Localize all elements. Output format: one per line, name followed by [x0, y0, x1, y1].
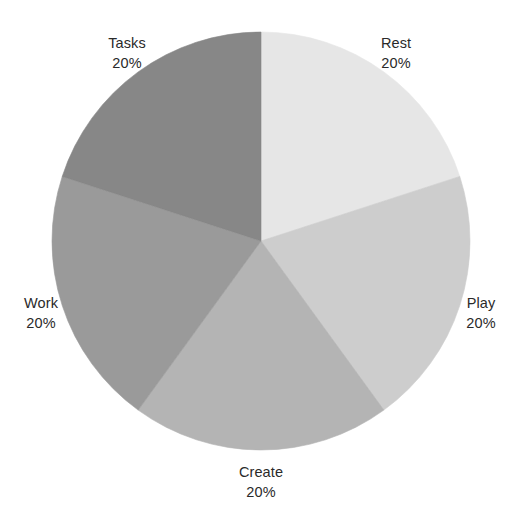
slice-label-value: 20%: [381, 53, 411, 73]
slice-label-rest: Rest 20%: [381, 33, 411, 73]
slice-label-play: Play 20%: [466, 293, 495, 333]
pie-chart-figure: Rest 20% Play 20% Create 20% Work 20% Ta…: [0, 0, 521, 521]
slice-label-name: Tasks: [108, 33, 146, 53]
slice-label-name: Play: [466, 293, 495, 313]
slice-label-tasks: Tasks 20%: [108, 33, 146, 73]
slice-label-name: Create: [239, 462, 283, 482]
slice-label-value: 20%: [466, 313, 495, 333]
slice-label-name: Rest: [381, 33, 411, 53]
slice-label-value: 20%: [239, 482, 283, 502]
slice-label-value: 20%: [108, 53, 146, 73]
slice-label-value: 20%: [24, 313, 58, 333]
pie-chart-canvas: [0, 0, 521, 521]
slice-label-work: Work 20%: [24, 293, 58, 333]
slice-label-name: Work: [24, 293, 58, 313]
slice-label-create: Create 20%: [239, 462, 283, 502]
